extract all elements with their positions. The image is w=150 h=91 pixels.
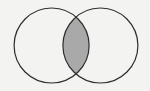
- venn-diagram: [0, 0, 150, 91]
